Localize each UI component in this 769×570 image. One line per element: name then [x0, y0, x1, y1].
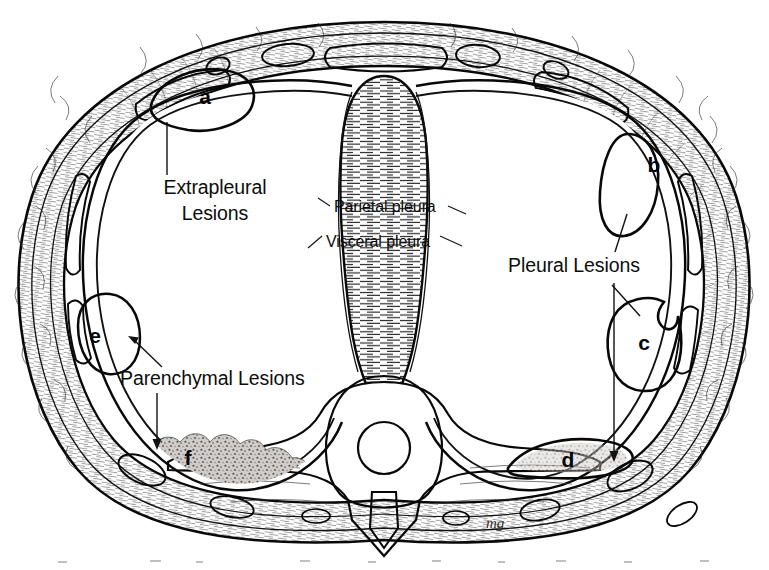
lesion-letter-b: b — [648, 153, 661, 176]
lesion-letter-a: a — [199, 85, 211, 108]
lesion-letter-f: f — [185, 446, 193, 469]
lesion-letter-d: d — [562, 448, 575, 471]
structure-label-visceral-pleura: Visceral pleura — [326, 233, 430, 250]
lesion-letter-c: c — [638, 331, 650, 354]
callout-pleural-lesions: Pleural Lesions — [508, 254, 640, 276]
artist-signature: mg — [486, 515, 505, 531]
callout-extrapleural-line1: Extrapleural — [164, 176, 267, 198]
figure-canvas: a b c d e — [0, 0, 769, 570]
callout-parenchymal-lesions: Parenchymal Lesions — [120, 367, 305, 389]
lesion-letter-e: e — [89, 324, 101, 347]
structure-label-parietal-pleura: Parietal pleura — [334, 198, 436, 215]
thoracic-cross-section-figure: a b c d e — [0, 0, 769, 570]
mediastinum — [339, 76, 430, 384]
callout-extrapleural-line2: Lesions — [182, 202, 249, 224]
